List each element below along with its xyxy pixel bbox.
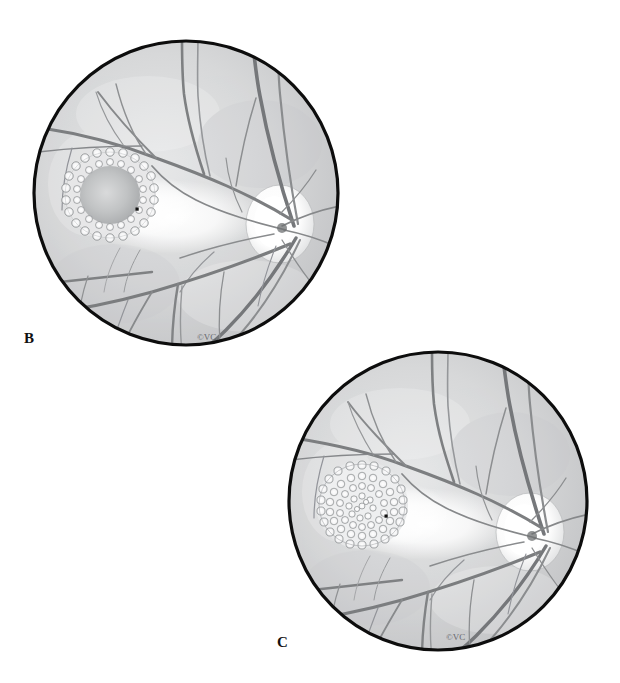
fundus-interior-b: ©VC [28, 34, 344, 352]
panel-label-b: B [24, 330, 34, 347]
artist-signature-b: ©VC [197, 332, 216, 342]
fovea-marker-c [385, 515, 388, 518]
fundus-interior-c: ©VC [282, 348, 594, 654]
artist-signature-c: ©VC [446, 632, 465, 642]
fundus-drawing-c: ©VC [282, 348, 594, 654]
macular-lesion-c [316, 461, 408, 549]
fundus-panel-b: ©VC [28, 34, 344, 352]
panel-label-c: C [277, 634, 288, 651]
fundus-panel-c: ©VC [282, 348, 594, 654]
fovea-marker-b [136, 208, 139, 211]
fundus-drawing-b: ©VC [28, 34, 344, 352]
figure-plate: ©VC [0, 0, 620, 683]
